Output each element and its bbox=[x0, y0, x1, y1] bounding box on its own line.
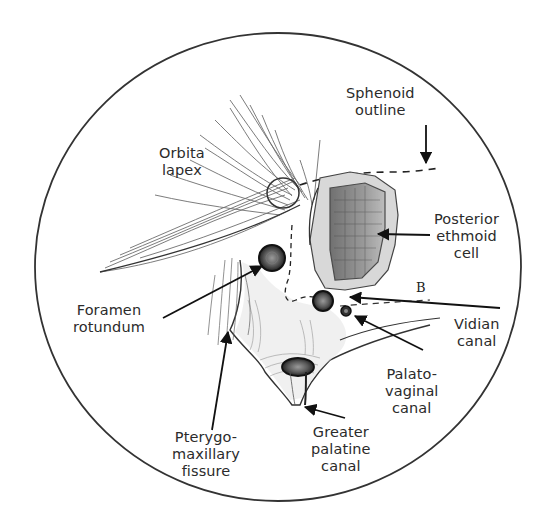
label-orbita-lapex: Orbita lapex bbox=[159, 145, 205, 179]
vidian-dashed-line bbox=[340, 300, 430, 306]
arrow-vidian-canal bbox=[350, 297, 500, 308]
label-sphenoid-outline: Sphenoid outline bbox=[346, 85, 415, 119]
anatomical-diagram: Sphenoid outline Orbita lapex Posterior … bbox=[0, 0, 543, 518]
vidian-canal-hole bbox=[313, 291, 333, 311]
foramen-rotundum-hole bbox=[259, 245, 285, 271]
arrow-pterygomaxillary bbox=[212, 332, 228, 430]
label-foramen-rotundum: Foramen rotundum bbox=[73, 302, 145, 336]
marker-b: B bbox=[416, 280, 426, 295]
label-pterygomaxillary-fissure: Pterygo- maxillary fissure bbox=[172, 429, 240, 480]
greater-palatine-canal-hole bbox=[282, 358, 314, 376]
label-palatovaginal-canal: Palato- vaginal canal bbox=[385, 366, 439, 417]
arrow-greater-palatine bbox=[305, 407, 345, 418]
orbita-apex-strokes bbox=[100, 95, 320, 272]
arrow-posterior-ethmoid bbox=[378, 234, 430, 235]
label-posterior-ethmoid-cell: Posterior ethmoid cell bbox=[434, 211, 499, 262]
label-greater-palatine-canal: Greater palatine canal bbox=[311, 424, 371, 475]
label-vidian-canal: Vidian canal bbox=[454, 316, 500, 350]
